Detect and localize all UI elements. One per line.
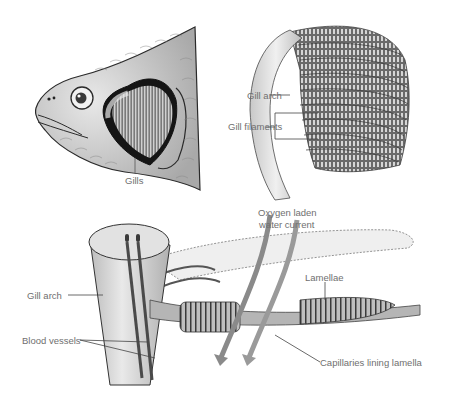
label-gill-arch-top: Gill arch: [247, 90, 282, 101]
label-blood-vessels: Blood vessels: [22, 335, 81, 346]
gill-arch-bone: [250, 30, 302, 200]
label-oxygen-line2: water current: [259, 219, 314, 230]
label-gill-filaments: Gill filaments: [228, 121, 282, 132]
lamellae-rings: [180, 302, 240, 332]
label-gill-arch-bottom: Gill arch: [27, 290, 62, 301]
label-lamellae: Lamellae: [305, 272, 344, 283]
label-gills: Gills: [125, 175, 143, 186]
label-oxygen-line1: Oxygen laden: [258, 207, 317, 218]
label-capillaries: Capillaries lining lamella: [320, 357, 422, 368]
lamellae-rings-tip: [300, 297, 395, 324]
fish-head-illustration: [35, 27, 200, 190]
gill-arch-illustration: [250, 26, 409, 200]
